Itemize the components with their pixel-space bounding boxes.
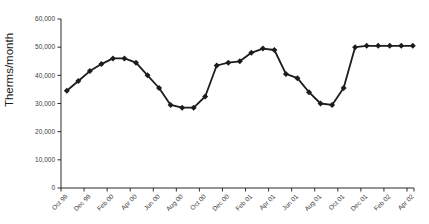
- x-tick-label: Apr 00: [119, 192, 138, 211]
- data-point-marker: [398, 43, 404, 49]
- data-line: [67, 46, 413, 108]
- axes: [61, 19, 414, 188]
- x-tick-label: Oct 00: [189, 192, 208, 211]
- chart-container: Therms/month 010,00020,00030,00040,00050…: [0, 0, 429, 224]
- x-tick-label: Apr 01: [258, 192, 277, 211]
- x-tick-label: Feb 00: [96, 192, 116, 212]
- therms-line-chart: Therms/month 010,00020,00030,00040,00050…: [0, 0, 429, 224]
- data-point-marker: [225, 60, 231, 66]
- data-point-marker: [364, 43, 370, 49]
- x-tick-label: Dec 01: [349, 192, 369, 212]
- data-point-marker: [352, 44, 358, 50]
- x-tick-label: Feb 02: [372, 192, 392, 212]
- y-tick-label: 20,000: [35, 128, 55, 135]
- data-point-marker: [260, 46, 266, 52]
- x-tick-label: Dec 00: [211, 192, 231, 212]
- data-point-marker: [179, 105, 185, 111]
- data-point-marker: [121, 55, 127, 61]
- data-point-marker: [214, 62, 220, 68]
- y-tick-label: 10,000: [35, 156, 55, 163]
- y-tick-label: 50,000: [35, 43, 55, 50]
- y-tick-label: 60,000: [35, 15, 55, 22]
- y-axis-ticks: 010,00020,00030,00040,00050,00060,000: [35, 15, 61, 191]
- x-axis-ticks: Oct 99Dec 99Feb 00Apr 00Jun 00Aug 00Oct …: [50, 188, 415, 213]
- data-point-marker: [375, 43, 381, 49]
- data-point-marker: [110, 55, 116, 61]
- x-tick-label: Aug 00: [165, 192, 185, 212]
- data-point-marker: [387, 43, 393, 49]
- x-tick-label: Apr 02: [396, 192, 415, 211]
- data-point-marker: [283, 71, 289, 77]
- x-tick-label: Jun 00: [142, 192, 161, 211]
- x-tick-label: Oct 01: [327, 192, 346, 211]
- x-tick-label: Jun 01: [281, 192, 300, 211]
- x-tick-label: Oct 99: [50, 192, 69, 211]
- y-axis-title: Therms/month: [3, 33, 15, 107]
- x-tick-label: Dec 99: [72, 192, 92, 212]
- data-series: [64, 43, 416, 111]
- x-tick-label: Aug 01: [303, 192, 323, 212]
- data-point-marker: [410, 43, 416, 49]
- data-point-marker: [271, 47, 277, 53]
- x-tick-label: Feb 01: [234, 192, 254, 212]
- y-tick-label: 30,000: [35, 100, 55, 107]
- y-tick-label: 40,000: [35, 72, 55, 79]
- y-tick-label: 0: [51, 184, 55, 191]
